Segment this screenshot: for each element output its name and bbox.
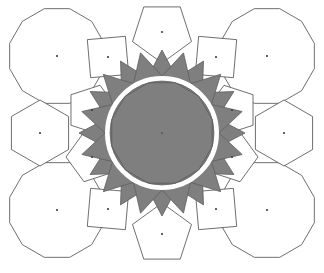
- center-dot: [266, 209, 268, 211]
- tiling-diagram: [0, 0, 324, 273]
- tiling-canvas: [0, 0, 324, 273]
- center-dot: [266, 55, 268, 57]
- center-dot: [107, 208, 109, 210]
- center-dot: [39, 132, 41, 134]
- center-dot: [91, 109, 93, 111]
- center-dot: [56, 55, 58, 57]
- center-dot: [161, 132, 163, 134]
- center-dot: [231, 156, 233, 158]
- center-dot: [107, 56, 109, 58]
- center-dot: [161, 233, 163, 235]
- center-dot: [161, 31, 163, 33]
- center-dot: [283, 132, 285, 134]
- center-dot: [91, 156, 93, 158]
- center-dot: [231, 109, 233, 111]
- center-dot: [215, 208, 217, 210]
- center-dot: [56, 209, 58, 211]
- center-dot: [215, 56, 217, 58]
